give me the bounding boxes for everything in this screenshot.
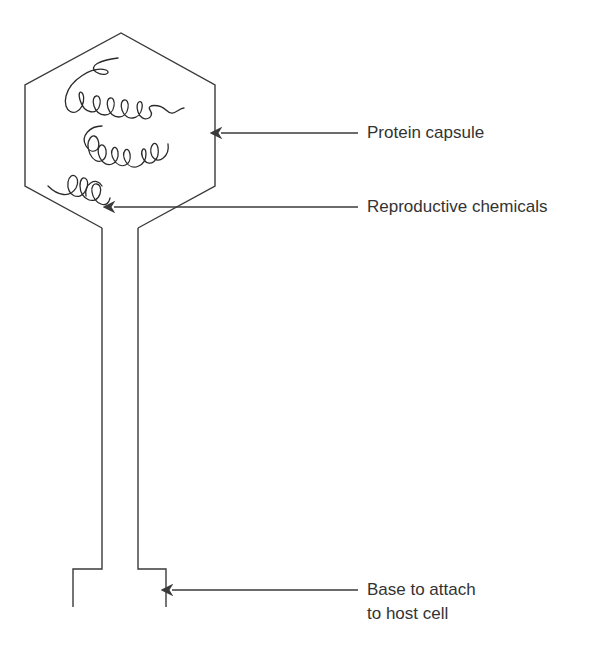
virus-diagram <box>0 0 616 656</box>
reproductive-chemicals-label: Reproductive chemicals <box>367 196 547 218</box>
tail-stem-left <box>73 228 102 607</box>
base-label-line-1: Base to attach <box>367 579 476 601</box>
base-label-line-2: to host cell <box>367 603 448 625</box>
tail-stem-right <box>138 228 166 607</box>
protein-capsule-label: Protein capsule <box>367 122 484 144</box>
protein-capsule-shape <box>25 33 215 228</box>
reproductive-chemicals-coil <box>48 58 184 205</box>
